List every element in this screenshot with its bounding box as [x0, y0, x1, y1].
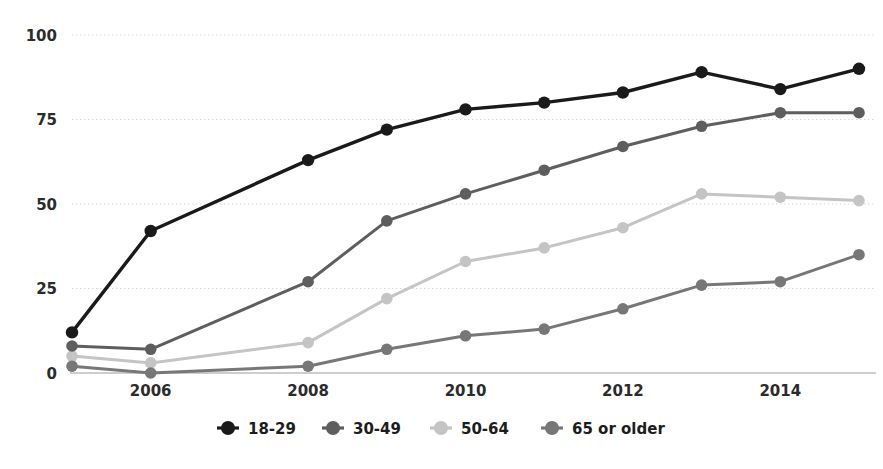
data-point [696, 188, 708, 200]
data-point [381, 123, 393, 135]
data-point [381, 215, 393, 227]
data-point [775, 276, 787, 288]
data-point [853, 63, 865, 75]
x-axis-tick-label: 2014 [759, 382, 801, 400]
legend-item-50-64[interactable]: 50-64 [430, 420, 509, 438]
legend-label: 18-29 [248, 420, 296, 438]
data-point [695, 66, 707, 78]
data-point [696, 279, 708, 291]
data-point [538, 96, 550, 108]
data-point [145, 225, 157, 237]
legend-item-18-29[interactable]: 18-29 [217, 420, 296, 438]
data-point [617, 86, 629, 98]
y-axis-tick-label: 75 [36, 111, 57, 129]
data-point [145, 367, 157, 379]
data-point [145, 357, 157, 369]
data-series-group [66, 63, 865, 379]
legend-marker-icon [221, 421, 235, 435]
data-point [617, 303, 629, 315]
line-chart: 0255075100 20062008201020122014 18-2930-… [0, 0, 883, 469]
data-point [853, 107, 865, 119]
y-axis-tick-labels: 0255075100 [26, 27, 57, 383]
data-point [66, 326, 78, 338]
data-point [381, 344, 393, 356]
series-18-29 [66, 63, 865, 339]
series-line [72, 113, 859, 350]
data-point [460, 188, 472, 200]
data-point [538, 323, 550, 335]
data-point [538, 242, 550, 254]
data-point [774, 83, 786, 95]
chart-legend: 18-2930-4950-6465 or older [217, 420, 665, 438]
y-axis-tick-label: 0 [47, 365, 57, 383]
gridlines [70, 35, 876, 373]
data-point [302, 337, 314, 349]
legend-marker-icon [434, 421, 448, 435]
data-point [775, 191, 787, 203]
data-point [459, 103, 471, 115]
legend-item-65-or-older[interactable]: 65 or older [541, 420, 665, 438]
data-point [775, 107, 787, 119]
series-line [72, 255, 859, 373]
legend-label: 30-49 [353, 420, 401, 438]
x-axis-tick-labels: 20062008201020122014 [130, 382, 801, 400]
data-point [66, 340, 78, 352]
data-point [617, 141, 629, 153]
data-point [538, 164, 550, 176]
data-point [460, 256, 472, 268]
data-point [460, 330, 472, 342]
x-axis-tick-label: 2008 [287, 382, 329, 400]
data-point [66, 360, 78, 372]
data-point [696, 121, 708, 133]
data-point [66, 350, 78, 362]
legend-marker-icon [326, 421, 340, 435]
data-point [381, 293, 393, 305]
data-point [145, 344, 157, 356]
data-point [302, 360, 314, 372]
x-axis-tick-label: 2010 [445, 382, 487, 400]
x-axis-tick-label: 2006 [130, 382, 172, 400]
series-30-49 [66, 107, 865, 355]
legend-label: 50-64 [461, 420, 509, 438]
chart-container: 0255075100 20062008201020122014 18-2930-… [0, 0, 883, 469]
data-point [302, 276, 314, 288]
data-point [853, 195, 865, 207]
x-axis-tick-label: 2012 [602, 382, 644, 400]
data-point [853, 249, 865, 261]
legend-item-30-49[interactable]: 30-49 [322, 420, 401, 438]
legend-marker-icon [545, 421, 559, 435]
data-point [617, 222, 629, 234]
legend-label: 65 or older [572, 420, 665, 438]
data-point [302, 154, 314, 166]
y-axis-tick-label: 100 [26, 27, 57, 45]
y-axis-tick-label: 25 [36, 280, 57, 298]
y-axis-tick-label: 50 [36, 196, 57, 214]
